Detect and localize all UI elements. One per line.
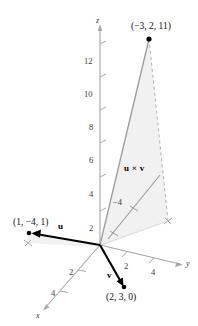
x-tick-label-2: 2 (69, 268, 73, 277)
x-axis-label: x (36, 312, 40, 320)
x-axis-arrowhead (43, 304, 50, 310)
z-axis-ticks (100, 41, 106, 211)
z-tick-label-2: 2 (89, 224, 93, 233)
cross-product-shaded-region (100, 39, 168, 245)
u-point-label: (1, −4, 1) (13, 218, 48, 228)
v-vector-label: v (107, 271, 112, 280)
u-vector-label: u (58, 222, 63, 231)
u-endpoint-dot (27, 231, 32, 236)
z-tick-label-8: 8 (89, 123, 93, 132)
vector-cross-product-figure (0, 0, 198, 326)
y-axis-label: y (186, 260, 190, 268)
y-axis (100, 245, 180, 264)
x-tick-label-4: 4 (51, 289, 55, 298)
u-cross-v-label: u × v (124, 164, 145, 173)
v-point-label: (2, 3, 0) (106, 293, 136, 303)
z-tick-label-12: 12 (84, 57, 93, 66)
y-tick-label-2: 2 (124, 262, 128, 271)
z-tick-label-4: 4 (89, 190, 93, 199)
neg4-tick-label: −4 (113, 198, 122, 207)
v-endpoint-dot (122, 285, 127, 290)
y-axis-arrowhead (175, 262, 183, 267)
cross-product-point-label: (−3, 2, 11) (131, 22, 171, 32)
cross-product-endpoint-dot (146, 36, 151, 41)
z-axis-label: z (96, 17, 99, 25)
z-tick-label-6: 6 (89, 156, 93, 165)
z-axis-arrowhead (98, 24, 103, 31)
z-tick-label-10: 10 (84, 90, 93, 99)
y-tick-label-4: 4 (151, 268, 155, 277)
